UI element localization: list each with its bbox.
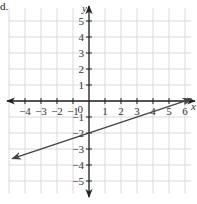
y-tick-label: −4 xyxy=(72,159,84,171)
y-axis-label: y xyxy=(81,2,87,14)
y-tick-label: 1 xyxy=(79,79,85,91)
y-tick-label: 5 xyxy=(79,15,85,27)
y-tick-label: 2 xyxy=(79,63,85,75)
y-tick-label: 4 xyxy=(79,31,85,43)
coordinate-plane: −4−3−2−112345654321−1−2−3−4−50yx xyxy=(0,0,197,204)
x-tick-label: 2 xyxy=(118,105,124,117)
y-tick-label: −5 xyxy=(72,175,84,187)
x-tick-label: −3 xyxy=(35,105,47,117)
y-tick-label: 3 xyxy=(79,47,85,59)
x-tick-label: −2 xyxy=(51,105,63,117)
x-axis-label: x xyxy=(190,100,196,112)
x-tick-label: 3 xyxy=(134,105,140,117)
x-tick-label: 1 xyxy=(102,105,108,117)
x-tick-label: −4 xyxy=(19,105,31,117)
origin-label: 0 xyxy=(78,103,84,115)
y-tick-label: −3 xyxy=(72,143,84,155)
x-tick-label: 6 xyxy=(182,105,188,117)
